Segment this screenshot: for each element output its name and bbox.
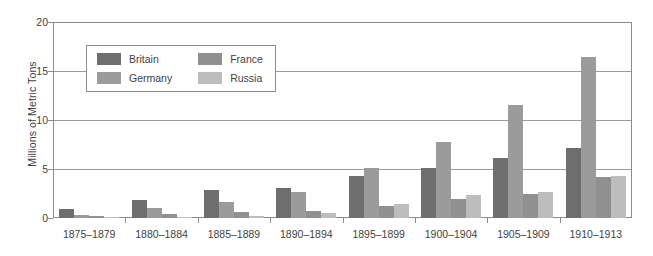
legend-item-germany: Germany <box>97 72 172 84</box>
bar-germany <box>581 57 596 218</box>
x-tick-mark <box>343 218 344 223</box>
y-tick-label: 20 <box>2 16 48 28</box>
bar-russia <box>321 213 336 218</box>
y-axis-ticks: 05101520 <box>0 22 48 218</box>
legend-swatch-russia <box>198 72 222 84</box>
x-tick-label: 1880–1884 <box>135 228 188 240</box>
legend: BritainFranceGermanyRussia <box>86 45 276 92</box>
bar-france <box>306 211 321 218</box>
x-tick-label: 1895–1899 <box>352 228 405 240</box>
y-tick-label: 15 <box>2 65 48 77</box>
y-tick-mark <box>48 218 53 219</box>
x-tick-label: 1885–1889 <box>208 228 261 240</box>
bar-russia <box>466 195 481 218</box>
bar-chart: Millions of Metric Tons 05101520 1875–18… <box>0 0 653 256</box>
legend-swatch-britain <box>97 53 121 65</box>
bar-france <box>234 212 249 218</box>
legend-item-russia: Russia <box>198 72 263 84</box>
bar-britain <box>566 148 581 218</box>
bar-germany <box>147 208 162 218</box>
bar-group <box>415 22 487 218</box>
bar-russia <box>104 217 119 218</box>
bar-germany <box>508 105 523 218</box>
bar-germany <box>74 215 89 218</box>
bar-group <box>343 22 415 218</box>
bar-russia <box>394 204 409 218</box>
bar-germany <box>364 168 379 218</box>
bar-russia <box>538 192 553 218</box>
bar-germany <box>436 142 451 218</box>
x-tick-label: 1890–1894 <box>280 228 333 240</box>
bar-britain <box>132 200 147 218</box>
legend-label: Germany <box>129 72 172 84</box>
bar-britain <box>493 158 508 218</box>
bar-britain <box>421 168 436 218</box>
x-tick-mark <box>125 218 126 223</box>
bar-britain <box>204 190 219 218</box>
bar-france <box>596 177 611 218</box>
x-tick-mark <box>270 218 271 223</box>
legend-label: France <box>230 53 263 65</box>
bar-britain <box>349 176 364 218</box>
bar-britain <box>59 209 74 218</box>
x-tick-label: 1900–1904 <box>425 228 478 240</box>
legend-label: Russia <box>230 72 262 84</box>
bar-russia <box>249 216 264 218</box>
legend-label: Britain <box>129 53 159 65</box>
bar-france <box>162 214 177 218</box>
bar-germany <box>219 202 234 218</box>
x-tick-label: 1905–1909 <box>497 228 550 240</box>
y-tick-label: 5 <box>2 163 48 175</box>
bar-group <box>560 22 632 218</box>
x-tick-mark <box>415 218 416 223</box>
bar-russia <box>177 217 192 218</box>
x-tick-mark <box>560 218 561 223</box>
bar-france <box>451 199 466 218</box>
bar-group <box>270 22 342 218</box>
legend-item-france: France <box>198 53 263 65</box>
x-tick-label: 1875–1879 <box>63 228 116 240</box>
x-tick-mark <box>198 218 199 223</box>
bar-france <box>379 206 394 218</box>
bar-france <box>523 194 538 219</box>
bar-france <box>89 216 104 218</box>
bar-britain <box>276 188 291 218</box>
legend-swatch-france <box>198 53 222 65</box>
bar-russia <box>611 176 626 218</box>
bar-germany <box>291 192 306 218</box>
y-tick-label: 0 <box>2 212 48 224</box>
legend-item-britain: Britain <box>97 53 172 65</box>
bar-group <box>487 22 559 218</box>
y-tick-label: 10 <box>2 114 48 126</box>
x-tick-label: 1910–1913 <box>570 228 623 240</box>
legend-swatch-germany <box>97 72 121 84</box>
x-tick-mark <box>487 218 488 223</box>
